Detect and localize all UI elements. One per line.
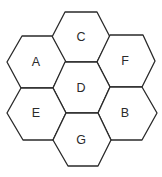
hex-label-g: G — [76, 133, 86, 147]
hex-label-f: F — [121, 54, 129, 68]
hex-label-e: E — [32, 106, 40, 120]
hex-label-c: C — [76, 30, 85, 44]
hex-cell-g: G — [53, 113, 111, 166]
hex-label-a: A — [32, 55, 41, 69]
hex-label-d: D — [76, 81, 85, 95]
hexagon-diagram: C A F D E B G — [0, 0, 162, 177]
hex-label-b: B — [121, 106, 129, 120]
